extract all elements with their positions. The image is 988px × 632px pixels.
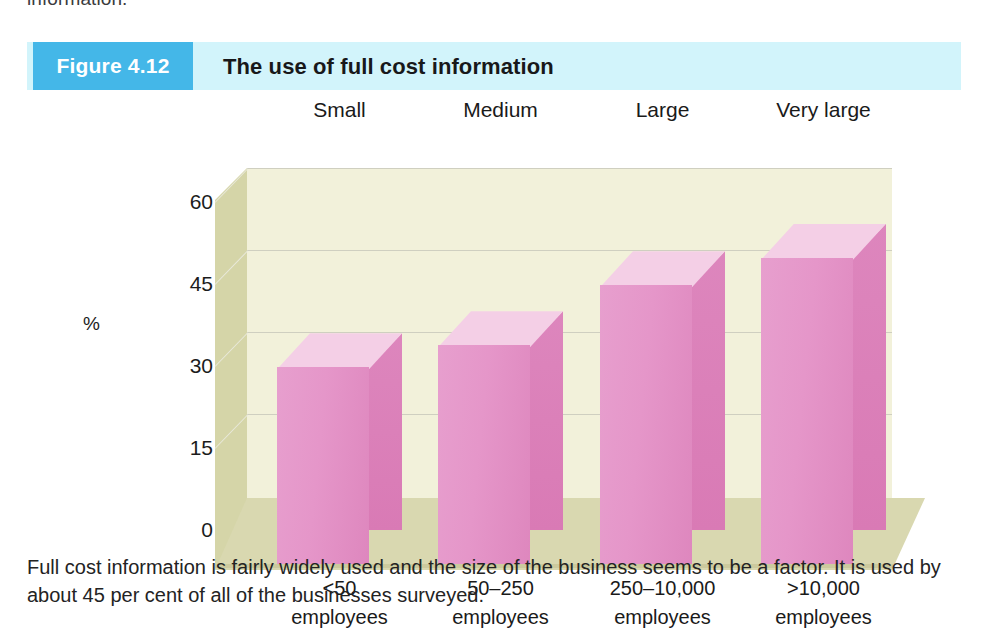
figure-caption: Full cost information is fairly widely u…	[27, 553, 957, 609]
bar	[277, 333, 402, 564]
bar-side-face	[853, 224, 886, 530]
y-axis-tick-label: 30	[127, 355, 213, 376]
bar-front-face	[277, 367, 369, 564]
bar	[600, 251, 725, 564]
top-category-label: Very large	[701, 98, 946, 122]
bar-front-face	[438, 345, 530, 564]
figure-container: Figure 4.12 The use of full cost informa…	[27, 42, 961, 546]
figure-header-band: Figure 4.12 The use of full cost informa…	[27, 42, 961, 90]
bar-chart: 015304560 % SmallMediumLargeVery large <…	[27, 90, 961, 546]
y-axis-tick-label: 60	[127, 191, 213, 212]
page-running-text: information.	[27, 0, 127, 6]
figure-number-label: Figure 4.12	[33, 42, 193, 90]
bar	[761, 224, 886, 564]
bar	[438, 311, 563, 564]
bar-front-face	[600, 285, 692, 564]
y-axis-tick-label: 45	[127, 273, 213, 294]
y-axis: 015304560	[127, 90, 213, 546]
y-axis-tick-label: 0	[127, 519, 213, 540]
bar-side-face	[692, 251, 725, 530]
bar-side-face	[530, 311, 563, 530]
y-axis-title: %	[83, 313, 100, 335]
figure-number-badge: Figure 4.12	[33, 42, 193, 90]
gridline	[247, 168, 892, 169]
bar-front-face	[761, 258, 853, 564]
figure-title: The use of full cost information	[223, 42, 554, 90]
figure-body: 015304560 % SmallMediumLargeVery large <…	[27, 90, 961, 546]
y-axis-tick-label: 15	[127, 437, 213, 458]
